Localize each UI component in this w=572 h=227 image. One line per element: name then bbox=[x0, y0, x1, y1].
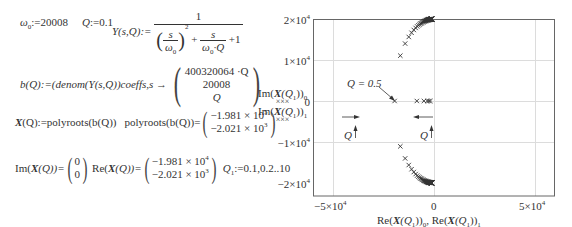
q-up-arrow-right bbox=[430, 125, 434, 138]
q05-label: Q = 0.5 bbox=[347, 77, 382, 89]
q05-annotation bbox=[379, 87, 395, 101]
root-locus-plot bbox=[0, 0, 572, 227]
q-up-arrow-left bbox=[354, 125, 358, 138]
data-point-marker bbox=[407, 163, 411, 167]
arrow-left-right bbox=[413, 115, 433, 119]
data-point-marker bbox=[403, 156, 407, 160]
q-label-left: Q bbox=[344, 129, 352, 141]
plot-grid bbox=[313, 19, 555, 196]
data-point-marker bbox=[403, 41, 407, 45]
data-markers bbox=[392, 17, 434, 185]
q-label-right: Q bbox=[420, 129, 428, 141]
data-point-marker bbox=[398, 53, 402, 57]
data-point-marker bbox=[398, 144, 402, 148]
arrow-right-left bbox=[342, 115, 360, 119]
data-point-marker bbox=[407, 35, 411, 39]
